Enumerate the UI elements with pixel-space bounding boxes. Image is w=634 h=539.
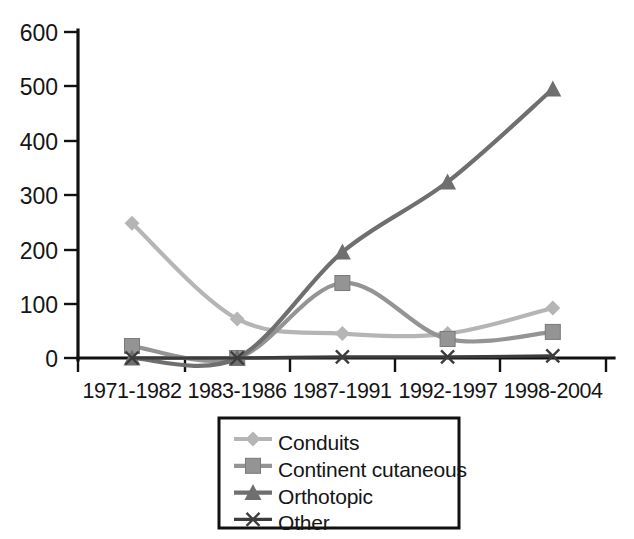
data-point bbox=[335, 276, 350, 291]
series-continent-cutaneous bbox=[125, 276, 561, 366]
square-icon bbox=[246, 458, 261, 473]
data-point bbox=[440, 331, 455, 346]
data-point bbox=[335, 326, 350, 341]
y-tick-label-100: 100 bbox=[20, 292, 58, 318]
series-line bbox=[132, 283, 553, 361]
legend-label-other: Other bbox=[278, 511, 330, 534]
x-tick-label-1: 1983-1986 bbox=[187, 379, 287, 403]
series-layer bbox=[124, 81, 562, 366]
chart-canvas: 600 500 400 300 200 100 0 1971-1982 1983… bbox=[0, 0, 634, 539]
chart-legend: Conduits Continent cutaneous Orthotopic … bbox=[219, 418, 467, 534]
data-point bbox=[544, 81, 561, 97]
line-chart: 600 500 400 300 200 100 0 1971-1982 1983… bbox=[0, 0, 634, 539]
y-tick-label-500: 500 bbox=[20, 74, 58, 100]
y-tick-label-0: 0 bbox=[45, 346, 58, 372]
data-point bbox=[545, 301, 560, 316]
legend-label-conduits: Conduits bbox=[278, 431, 359, 454]
legend-label-orthotopic: Orthotopic bbox=[278, 485, 373, 508]
x-tick-label-3: 1992-1997 bbox=[398, 379, 497, 403]
y-tick-label-600: 600 bbox=[20, 20, 58, 46]
y-tick-label-300: 300 bbox=[20, 183, 58, 209]
data-point bbox=[545, 324, 560, 339]
y-tick-label-200: 200 bbox=[20, 238, 58, 264]
x-tick-label-4: 1998-2004 bbox=[503, 379, 603, 403]
y-axis: 600 500 400 300 200 100 0 bbox=[20, 20, 78, 372]
y-tick-label-400: 400 bbox=[20, 129, 58, 155]
x-tick-label-0: 1971-1982 bbox=[82, 379, 181, 403]
legend-label-continent-cutaneous: Continent cutaneous bbox=[278, 458, 467, 481]
x-tick-label-2: 1987-1991 bbox=[292, 379, 391, 403]
x-axis: 1971-1982 1983-1986 1987-1991 1992-1997 … bbox=[78, 358, 614, 403]
series-other bbox=[126, 349, 560, 364]
